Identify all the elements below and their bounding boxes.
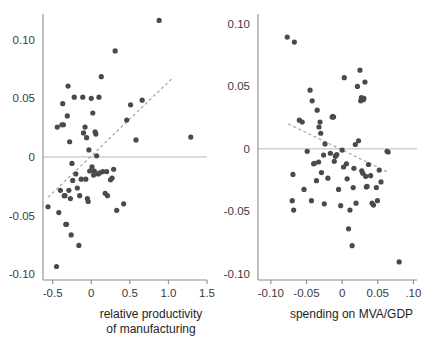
data-point xyxy=(54,264,59,269)
scatter-panel-right: -0.10-0.0500.05.100.100.050-0.05-0.10spe… xyxy=(217,0,434,337)
data-point xyxy=(356,138,361,143)
data-point xyxy=(90,110,95,115)
x-tick-label: 0 xyxy=(88,287,94,299)
y-tick-label: 0.05 xyxy=(228,80,250,92)
data-point xyxy=(58,188,63,193)
data-point xyxy=(68,196,73,201)
data-point xyxy=(368,173,373,178)
data-point xyxy=(64,222,69,227)
data-point xyxy=(377,168,382,173)
data-point xyxy=(111,167,116,172)
data-point xyxy=(133,137,138,142)
data-point xyxy=(334,152,339,157)
data-point xyxy=(345,176,350,181)
data-point xyxy=(76,243,81,248)
data-point xyxy=(65,83,70,88)
data-point xyxy=(86,147,91,152)
data-point xyxy=(69,161,74,166)
data-point xyxy=(315,108,320,113)
data-point xyxy=(355,84,360,89)
data-point xyxy=(342,75,347,80)
y-tick-label: -0.05 xyxy=(9,210,35,222)
data-point xyxy=(322,141,327,146)
data-point xyxy=(332,159,337,164)
data-point xyxy=(363,174,368,179)
x-tick-label: .10 xyxy=(405,287,421,299)
y-tick-label: 0.05 xyxy=(13,92,35,104)
x-tick-label: 0.05 xyxy=(367,287,389,299)
data-point xyxy=(56,210,61,215)
data-point xyxy=(336,187,341,192)
data-point-group xyxy=(285,35,402,265)
data-point xyxy=(291,207,296,212)
data-point xyxy=(353,201,358,206)
x-tick-label: -0.5 xyxy=(43,287,63,299)
data-point xyxy=(140,98,145,103)
x-tick-label: 1.0 xyxy=(160,287,176,299)
y-tick-label: 0 xyxy=(29,151,35,163)
data-point xyxy=(347,207,352,212)
data-point xyxy=(318,131,323,136)
data-point-group xyxy=(45,18,193,269)
data-point xyxy=(316,159,321,164)
data-point xyxy=(371,202,376,207)
data-point xyxy=(79,177,84,182)
scatter-svg-right: -0.10-0.0500.05.100.100.050-0.05-0.10spe… xyxy=(217,0,434,337)
data-point xyxy=(374,185,379,190)
data-point xyxy=(157,18,162,23)
x-axis-title-line: of manufacturing xyxy=(106,322,195,336)
data-point xyxy=(113,48,118,53)
x-tick-label: 0 xyxy=(339,287,345,299)
data-point xyxy=(351,166,356,171)
data-point xyxy=(109,175,114,180)
data-point xyxy=(66,188,71,193)
data-point xyxy=(82,124,87,129)
data-point xyxy=(84,135,89,140)
data-point xyxy=(344,161,349,166)
data-point xyxy=(378,179,383,184)
data-point xyxy=(340,148,345,153)
data-point xyxy=(331,114,336,119)
data-point xyxy=(305,149,310,154)
y-tick-label: 0.10 xyxy=(228,18,250,30)
data-point xyxy=(69,232,74,237)
data-point xyxy=(70,178,75,183)
data-point xyxy=(124,117,129,122)
y-tick-label: -0.10 xyxy=(224,268,250,280)
data-point xyxy=(99,74,104,79)
data-point xyxy=(96,95,101,100)
data-point xyxy=(350,243,355,248)
y-tick-label: -0.05 xyxy=(224,205,250,217)
data-point xyxy=(81,130,86,135)
data-point xyxy=(357,68,362,73)
data-point xyxy=(114,208,119,213)
data-point xyxy=(105,193,110,198)
data-point xyxy=(285,35,290,40)
data-point xyxy=(319,170,324,175)
data-point xyxy=(301,187,306,192)
x-tick-label: -0.10 xyxy=(258,287,284,299)
scatter-panel-left: -0.500.51.01.50.100.050-0.05-0.10relativ… xyxy=(0,0,217,337)
data-point xyxy=(62,193,67,198)
data-point xyxy=(104,169,109,174)
trendline-dashed xyxy=(288,124,389,173)
data-point xyxy=(55,124,60,129)
data-point xyxy=(346,226,351,231)
data-point xyxy=(45,204,50,209)
data-point xyxy=(375,198,380,203)
data-point xyxy=(351,185,356,190)
data-point xyxy=(292,39,297,44)
data-point xyxy=(93,132,98,137)
x-tick-label: 1.5 xyxy=(199,287,215,299)
data-point xyxy=(322,201,327,206)
data-point xyxy=(328,151,333,156)
data-point xyxy=(80,95,85,100)
data-point xyxy=(310,98,315,103)
data-point xyxy=(386,149,391,154)
data-point xyxy=(94,153,99,158)
y-tick-label: 0 xyxy=(244,143,250,155)
figure-root: -0.500.51.01.50.100.050-0.05-0.10relativ… xyxy=(0,0,434,337)
x-axis-title-line: spending on MVA/GDP xyxy=(290,307,413,321)
data-point xyxy=(321,153,326,158)
x-tick-label: -0.05 xyxy=(293,287,319,299)
